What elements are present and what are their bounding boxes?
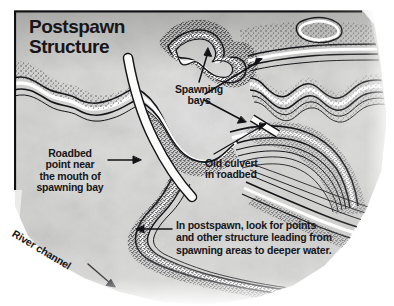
label-postspawn-note: In postspawn, look for points and other … bbox=[176, 219, 388, 256]
page-title: Postspawn Structure bbox=[29, 17, 125, 57]
label-roadbed-point: Roadbed point near the mouth of spawning… bbox=[18, 148, 122, 193]
label-spawning-bays: Spawning bays bbox=[166, 84, 232, 107]
page-title-line-2: Structure bbox=[29, 37, 125, 57]
page-title-line-1: Postspawn bbox=[29, 17, 125, 37]
label-old-culvert: Old culvert in roadbed bbox=[205, 158, 295, 181]
figure-postspawn-structure: Postspawn Structure Spawning bays Old cu… bbox=[0, 0, 394, 306]
